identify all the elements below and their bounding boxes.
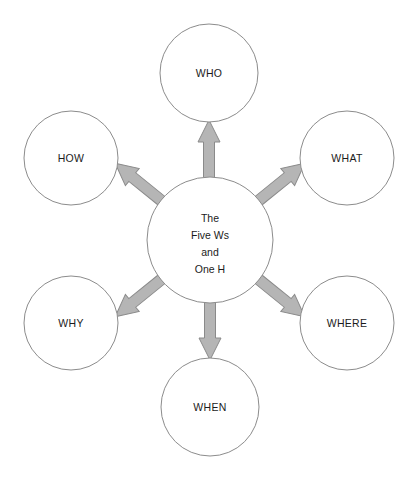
node-how[interactable]: HOW [24,111,118,205]
diagram-canvas: WHO WHAT WHERE WHEN WHY HOW The Five Ws [0,0,415,479]
arrow-to-when [199,300,221,360]
five-ws-one-h-diagram: WHO WHAT WHERE WHEN WHY HOW The Five Ws [0,0,415,479]
node-when-label: WHEN [193,401,226,413]
node-what-label: WHAT [331,152,363,164]
hub-label-line-4: One H [195,263,225,275]
hub-label-line-3: and [201,246,219,258]
node-where-label: WHERE [327,317,368,329]
node-where[interactable]: WHERE [300,276,394,370]
hub-label-line-2: Five Ws [191,229,229,241]
node-hub[interactable]: The Five Ws and One H [147,177,273,303]
node-what[interactable]: WHAT [300,111,394,205]
hub-label-line-1: The [201,212,219,224]
node-when[interactable]: WHEN [161,358,259,456]
node-how-label: HOW [58,152,85,164]
node-why[interactable]: WHY [24,276,118,370]
node-why-label: WHY [58,317,83,329]
node-who[interactable]: WHO [160,24,258,122]
arrow-to-who [198,120,220,180]
node-who-label: WHO [196,67,223,79]
